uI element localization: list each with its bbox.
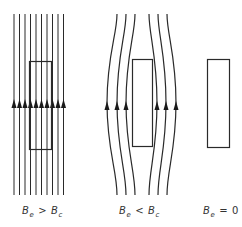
panel-2-arrows <box>105 101 179 110</box>
panel-1-label: Be>Bc <box>22 205 63 219</box>
panel-2-sample <box>133 60 153 147</box>
diagram-canvas <box>0 0 242 227</box>
panel-3-label: Be=0 <box>203 205 239 219</box>
panel-1-field-lines <box>14 14 64 195</box>
panel-2-label: Be<Bc <box>119 205 160 219</box>
panel-3-sample <box>208 60 230 148</box>
panel-1-arrows <box>12 99 67 108</box>
